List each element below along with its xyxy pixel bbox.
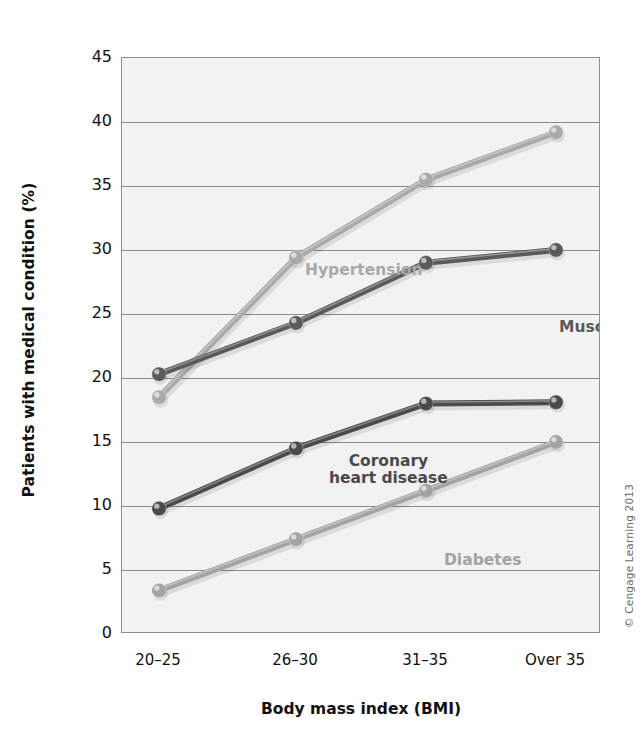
data-point[interactable]	[549, 125, 563, 139]
y-tick-label: 35	[72, 177, 112, 193]
data-point-highlight	[421, 175, 426, 180]
chart-figure: Patients with medical condition (%) 0510…	[0, 0, 644, 745]
y-tick-label: 30	[72, 241, 112, 257]
x-axis-title: Body mass index (BMI)	[121, 700, 601, 718]
data-point-highlight	[551, 245, 556, 250]
y-tick-label: 5	[72, 561, 112, 577]
plot-area: Hypertension Musculoskeletal pain Corona…	[121, 57, 600, 633]
y-tick-label: 15	[72, 433, 112, 449]
data-point-highlight	[291, 534, 296, 539]
data-point-highlight	[421, 399, 426, 404]
data-point[interactable]	[289, 532, 303, 546]
data-point[interactable]	[152, 390, 166, 404]
plot-svg	[122, 58, 600, 633]
data-point[interactable]	[549, 395, 563, 409]
data-point-highlight	[291, 443, 296, 448]
y-tick-label: 40	[72, 113, 112, 129]
data-point-highlight	[291, 253, 296, 258]
data-point-highlight	[154, 392, 159, 397]
copyright-notice: © Cengage Learning 2013	[623, 438, 635, 628]
y-tick-label: 25	[72, 305, 112, 321]
data-point-highlight	[551, 397, 556, 402]
data-point[interactable]	[152, 501, 166, 515]
data-point-highlight	[154, 503, 159, 508]
series-label-musculoskeletal-pain: Musculoskeletal pain	[559, 319, 600, 352]
series-label-coronary-heart-disease: Coronary heart disease	[329, 453, 448, 486]
y-tick-label: 45	[72, 49, 112, 65]
y-axis-title: Patients with medical condition (%)	[20, 115, 38, 565]
y-tick-label: 10	[72, 497, 112, 513]
x-tick-label: 31–35	[365, 651, 485, 669]
data-point[interactable]	[419, 396, 433, 410]
data-point[interactable]	[549, 435, 563, 449]
series-label-diabetes: Diabetes	[444, 552, 521, 569]
data-point-highlight	[154, 585, 159, 590]
x-tick-label: Over 35	[495, 651, 615, 669]
data-point[interactable]	[289, 441, 303, 455]
data-point[interactable]	[152, 583, 166, 597]
y-axis-tick-labels: 051015202530354045	[72, 0, 112, 745]
data-point-highlight	[551, 437, 556, 442]
data-point[interactable]	[152, 367, 166, 381]
x-tick-label: 20–25	[98, 651, 218, 669]
data-point[interactable]	[419, 172, 433, 186]
data-point-highlight	[551, 127, 556, 132]
series-label-hypertension: Hypertension	[305, 262, 423, 279]
data-point[interactable]	[289, 316, 303, 330]
y-tick-label: 0	[72, 625, 112, 641]
data-point-highlight	[154, 369, 159, 374]
x-tick-label: 26–30	[235, 651, 355, 669]
data-point[interactable]	[289, 250, 303, 264]
data-point-highlight	[291, 318, 296, 323]
y-tick-label: 20	[72, 369, 112, 385]
data-point[interactable]	[549, 243, 563, 257]
